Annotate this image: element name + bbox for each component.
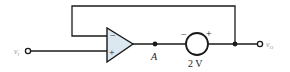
output-node-dot: [233, 42, 238, 47]
voltage-source-symbol: [186, 33, 208, 55]
source-negative-sign: −: [181, 29, 187, 40]
node-a-label: A: [150, 51, 158, 62]
input-terminal: [25, 48, 30, 53]
output-label: vO: [266, 40, 274, 50]
source-positive-sign: +: [206, 28, 212, 39]
output-terminal: [257, 41, 262, 46]
source-value-label: 2 V: [188, 58, 203, 69]
noninverting-input-sign: +: [109, 47, 115, 58]
circuit-diagram: − + A − + 2 V vI vO: [0, 0, 290, 72]
input-label: vI: [14, 47, 20, 57]
node-a-dot: [153, 42, 158, 47]
inverting-input-sign: −: [110, 30, 116, 41]
